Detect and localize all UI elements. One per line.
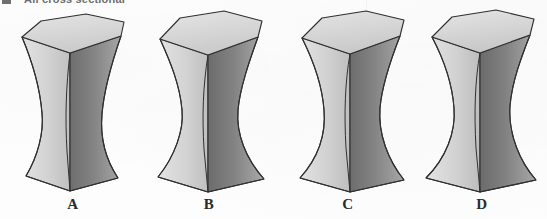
figure-caption-text: All cross sectional xyxy=(24,0,125,5)
solids-row xyxy=(0,6,547,196)
option-label-d: D xyxy=(462,196,502,213)
solid-b xyxy=(148,6,283,196)
option-label-c: C xyxy=(328,196,368,213)
option-label-b: B xyxy=(189,196,229,213)
solid-d-geometry xyxy=(426,10,536,192)
solid-a-geometry xyxy=(22,14,124,191)
square-bullet-icon xyxy=(2,0,11,4)
solid-a xyxy=(8,6,143,196)
solid-b-geometry xyxy=(158,11,264,192)
solid-d xyxy=(418,6,547,196)
solid-c xyxy=(288,6,423,196)
option-label-a: A xyxy=(53,196,93,213)
solid-c-geometry xyxy=(300,11,404,192)
figure-page: All cross sectional xyxy=(0,0,547,219)
